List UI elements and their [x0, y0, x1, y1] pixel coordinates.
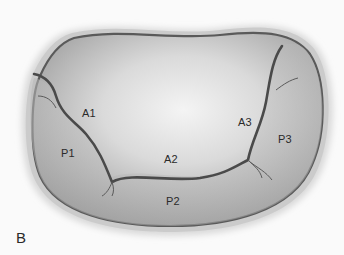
valve-illustration — [0, 0, 344, 255]
label-a1: A1 — [82, 107, 96, 119]
label-p3: P3 — [278, 133, 292, 145]
label-a3: A3 — [238, 116, 252, 128]
label-p1: P1 — [61, 147, 75, 159]
label-p2: P2 — [166, 195, 180, 207]
label-a2: A2 — [164, 153, 178, 165]
panel-label: B — [16, 229, 26, 246]
mitral-valve-diagram: A1 A2 A3 P1 P2 P3 B — [0, 0, 344, 255]
